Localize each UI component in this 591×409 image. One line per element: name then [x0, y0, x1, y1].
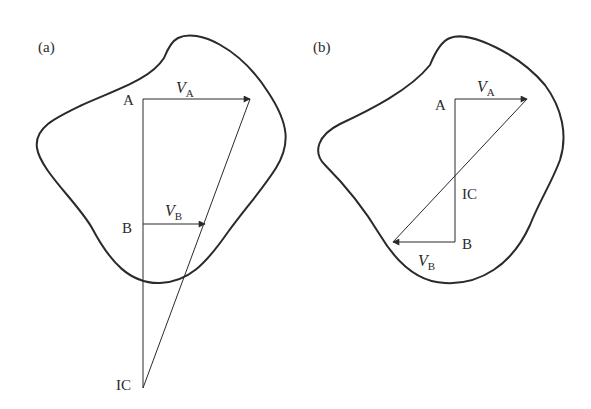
point-ic-label-b: IC — [462, 186, 477, 202]
instant-center-diagram: (a) A B IC VA VB (b) A B IC VA VB — [0, 0, 591, 409]
point-a-label: A — [123, 92, 134, 108]
panel-b-label: (b) — [313, 39, 331, 56]
diagonal-line — [143, 99, 250, 388]
point-b-label-b: B — [462, 236, 472, 252]
point-ic-label: IC — [116, 377, 131, 393]
vb-label: VB — [165, 202, 182, 222]
rigid-body-outline-a — [37, 35, 286, 283]
va-label: VA — [176, 79, 194, 99]
diagonal-line-b — [393, 99, 527, 242]
va-label-b: VA — [477, 78, 495, 98]
vb-label-b: VB — [418, 252, 435, 272]
point-a-label-b: A — [435, 97, 446, 113]
panel-b: (b) A B IC VA VB — [313, 36, 564, 283]
panel-a-label: (a) — [38, 39, 55, 56]
rigid-body-outline-b — [318, 36, 563, 283]
point-b-label: B — [122, 220, 132, 236]
panel-a: (a) A B IC VA VB — [37, 35, 286, 393]
